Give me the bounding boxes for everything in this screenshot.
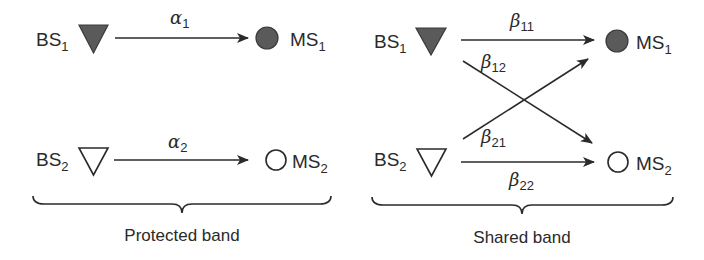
beta21-label: β21: [480, 126, 506, 150]
ms2-hollow-circle-icon: [608, 152, 628, 172]
protected-band-caption: Protected band: [124, 226, 239, 245]
bs2-hollow-triangle-icon: [417, 149, 446, 176]
beta11-label: β11: [509, 10, 534, 34]
ms2-label: MS2: [292, 151, 328, 176]
bs1-label: BS1: [36, 29, 69, 54]
protected-band-panel: BS1 α1 MS1 BS2 α2 MS2 Protected band: [33, 7, 331, 245]
shared-band-caption: Shared band: [473, 228, 570, 247]
shared-band-panel: BS1 β11 MS1 β12 β21 BS2 β22 MS2 Shared b…: [372, 10, 673, 247]
ms2-label: MS2: [636, 153, 672, 178]
bs1-filled-triangle-icon: [416, 28, 446, 55]
beta22-label: β22: [508, 169, 534, 193]
ms1-label: MS1: [290, 29, 326, 54]
ms1-filled-circle-icon: [256, 27, 278, 49]
ms1-label: MS1: [636, 32, 672, 57]
bs2-label: BS2: [36, 149, 69, 174]
bs2-label: BS2: [374, 149, 407, 174]
band-diagram: BS1 α1 MS1 BS2 α2 MS2 Protected band BS1…: [0, 0, 704, 260]
bs1-filled-triangle-icon: [79, 25, 108, 53]
ms2-hollow-circle-icon: [266, 150, 286, 170]
ms1-filled-circle-icon: [606, 30, 628, 52]
alpha1-label: α1: [170, 7, 189, 31]
bs2-hollow-triangle-icon: [79, 148, 108, 175]
alpha2-label: α2: [168, 131, 187, 155]
shared-band-brace: [372, 197, 673, 214]
bs1-label: BS1: [374, 31, 407, 56]
beta12-label: β12: [480, 51, 506, 75]
protected-band-brace: [33, 196, 331, 213]
